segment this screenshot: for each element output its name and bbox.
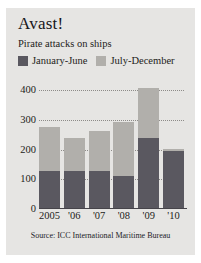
legend-item-january-june: January-June (18, 56, 87, 67)
bar-08 (113, 122, 134, 209)
legend-label-july-december: July-December (110, 56, 174, 67)
bar-segment-july-december (163, 149, 184, 151)
y-axis-tick-labels: 0100200300400 (6, 90, 36, 209)
chart-title: Avast! (18, 15, 63, 32)
bar-segment-july-december (89, 131, 110, 171)
bar-07 (89, 131, 110, 209)
bar-09 (138, 88, 159, 209)
chart-legend: January-June July-December (18, 54, 184, 68)
legend-swatch-january-june (18, 56, 28, 66)
gridline-400 (39, 90, 184, 91)
gridline-300 (39, 120, 184, 121)
legend-label-january-june: January-June (32, 56, 87, 67)
bar-segment-january-june (89, 171, 110, 209)
y-tick-label-100: 100 (8, 174, 36, 185)
bar-segment-january-june (163, 151, 184, 209)
bar-segment-january-june (138, 138, 159, 209)
y-tick-label-300: 300 (8, 115, 36, 126)
bar-segment-july-december (113, 122, 134, 176)
x-axis-line (39, 208, 187, 209)
chart-subtitle: Pirate attacks on ships (18, 39, 112, 50)
bar-segment-january-june (64, 171, 85, 209)
bar-segment-january-june (113, 176, 134, 209)
bar-segment-january-june (39, 171, 60, 209)
legend-item-july-december: July-December (96, 56, 174, 67)
legend-swatch-july-december (96, 56, 106, 66)
bar-segment-july-december (138, 88, 159, 137)
chart-source: Source: ICC International Maritime Burea… (6, 232, 195, 240)
y-tick-label-0: 0 (8, 204, 36, 215)
bar-segment-july-december (39, 127, 60, 171)
plot-area (39, 90, 184, 209)
bar-10 (163, 149, 184, 209)
x-tick-label-10: '10 (159, 211, 189, 222)
bar-06 (64, 138, 85, 209)
chart-figure: Avast! Pirate attacks on ships January-J… (6, 8, 195, 255)
y-tick-label-200: 200 (8, 144, 36, 155)
y-tick-label-400: 400 (8, 85, 36, 96)
bar-segment-july-december (64, 138, 85, 171)
bar-2005 (39, 127, 60, 209)
